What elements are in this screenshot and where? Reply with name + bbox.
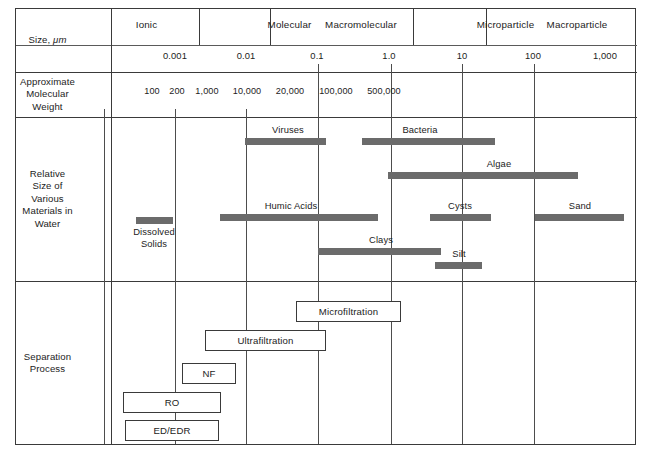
figure-caption [16,455,19,464]
separation-process-ultrafiltration[interactable]: Ultrafiltration [205,330,326,351]
row-label-size: Size, μm [0,9,95,72]
material-label-sand: Sand [569,200,591,211]
figure-table-frame [15,8,636,445]
row-label-text-molweight: ApproximateMolecularWeight [20,76,75,113]
rule-molweight-relsize [16,117,637,118]
row-label-text-size: Size, μm [28,34,66,46]
molecular-weight-20000: 20,000 [276,86,304,96]
size-category-macroparticle: Macroparticle [517,13,637,35]
material-bar-cysts [430,214,491,221]
molecular-weight-500000: 500,000 [367,86,401,96]
material-bar-sand [535,214,624,221]
row-label-separation: SeparationProcess [0,281,95,445]
molecular-weight-100: 100 [144,86,159,96]
rule-label-column [111,9,112,444]
row-label-text-relsize: RelativeSize ofVariousMaterials inWater [22,168,72,230]
gridline-01-lower [246,117,247,444]
material-label-algae: Algae [487,158,511,169]
size-category-macromolecular: Macromolecular [301,13,421,35]
material-label-bacteria: Bacteria [402,124,437,135]
molecular-weight-200: 200 [169,86,184,96]
figure-canvas: Size, μm ApproximateMolecularWeight Rela… [0,0,649,466]
molecular-weight-10000: 10,000 [233,86,261,96]
material-bar-silt [435,262,482,269]
material-bar-dissolved-solids [136,217,173,224]
molecular-weight-1000: 1,000 [195,86,218,96]
material-bar-viruses [245,138,326,145]
material-bar-clays [318,248,441,255]
gridline-1000 [534,64,535,444]
tick-0001 [104,109,105,117]
scale-tick-001: 0.01 [237,50,256,61]
separation-process-nf[interactable]: NF [182,363,236,384]
separation-process-ed-edr[interactable]: ED/EDR [125,420,219,441]
tick-001 [175,109,176,117]
material-label-cysts: Cysts [448,200,472,211]
material-bar-algae [388,172,578,179]
material-label-dissolved-solids: DissolvedSolids [133,226,175,249]
scale-tick-10: 1.0 [382,50,395,61]
material-bar-bacteria [362,138,495,145]
molecular-weight-100000: 100,000 [319,86,353,96]
material-label-silt: Silt [452,248,465,259]
separation-process-microfiltration[interactable]: Microfiltration [296,301,401,322]
material-label-clays: Clays [369,234,393,245]
gridline-0001-lower [104,117,105,444]
material-label-viruses: Viruses [272,124,304,135]
row-label-relsize: RelativeSize ofVariousMaterials inWater [0,117,95,281]
rule-size-scale [16,45,637,46]
scale-tick-10: 10 [457,50,468,61]
row-label-text-separation: SeparationProcess [24,351,71,376]
scale-tick-1000: 1,000 [593,50,617,61]
material-label-humic-acids: Humic Acids [265,200,318,211]
size-category-ionic: Ionic [87,13,207,35]
rule-relsize-separation [16,281,637,282]
separation-process-ro[interactable]: RO [123,392,221,413]
row-label-molweight: ApproximateMolecularWeight [0,72,95,117]
tick-01 [246,109,247,117]
scale-tick-0001: 0.001 [163,50,187,61]
rule-scale-molweight [16,72,637,73]
scale-tick-100: 100 [525,50,541,61]
scale-tick-01: 0.1 [310,50,323,61]
material-bar-humic-acids [220,214,378,221]
